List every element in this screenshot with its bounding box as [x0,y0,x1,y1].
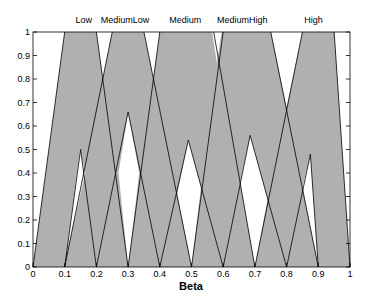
mf-label-mediumhigh: MediumHigh [217,15,268,25]
x-tick-label: 1 [347,269,352,279]
y-tick-label: 0.6 [17,121,30,131]
mf-labels: LowMediumLowMediumMediumHighHigh [75,15,322,25]
mf-label-mediumlow: MediumLow [101,15,150,25]
x-tick-label: 0.5 [185,269,198,279]
y-tick-label: 0.1 [17,239,30,249]
mf-label-high: High [304,15,323,25]
x-tick-label: 0.3 [122,269,135,279]
y-tick-label: 0.5 [17,145,30,155]
y-tick-label: 0.3 [17,192,30,202]
x-tick-label: 0.8 [280,269,293,279]
y-tick-label: 0.7 [17,98,30,108]
x-tick-label: 0.2 [90,269,103,279]
x-tick-label: 0.4 [154,269,167,279]
y-tick-label: 1 [25,27,30,37]
x-tick-label: 0.1 [58,269,71,279]
x-tick-label: 0.9 [312,269,325,279]
y-tick-label: 0 [25,262,30,272]
x-tick-label: 0.6 [217,269,230,279]
membership-function-chart: 00.10.20.30.40.50.60.70.80.91 00.10.20.3… [0,0,369,302]
x-tick-label: 0.7 [249,269,262,279]
y-tick-label: 0.8 [17,74,30,84]
x-tick-label: 0 [30,269,35,279]
y-tick-label: 0.4 [17,168,30,178]
mf-label-medium: Medium [169,15,201,25]
y-tick-label: 0.9 [17,51,30,61]
y-tick-label: 0.2 [17,215,30,225]
x-axis-label: Beta [179,280,204,292]
mf-label-low: Low [75,15,92,25]
